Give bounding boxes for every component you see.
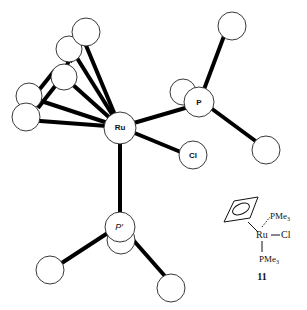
methyl-carbon-atom [157,274,185,302]
cp-carbon-atom [51,64,77,90]
cp-carbon-atom [12,103,40,131]
p-label: P [196,98,202,107]
p-methyl-bonds [200,28,265,148]
ru-label: Ru [115,123,126,132]
molecular-structure-diagram: Ru P Cl P′ PMe3 Ru Cl PMe3 11 [0,0,307,310]
p-prime-label: P′ [115,222,123,232]
cp-carbon-atom [72,18,100,46]
methyl-carbon-atom [252,136,280,164]
pme3-top-label: PMe3 [270,211,290,222]
cyclopentadienyl-ring-icon [224,197,258,222]
pme3-bottom-label: PMe3 [259,254,279,265]
methyl-carbon-atom [36,256,64,284]
methyl-carbon-atom [218,12,246,40]
inset-ru-label: Ru [256,229,268,240]
cl-label: Cl [189,151,197,160]
structural-formula-inset: PMe3 Ru Cl PMe3 11 [224,197,291,282]
compound-number: 11 [257,271,266,282]
inset-cl-label: Cl [281,229,291,240]
